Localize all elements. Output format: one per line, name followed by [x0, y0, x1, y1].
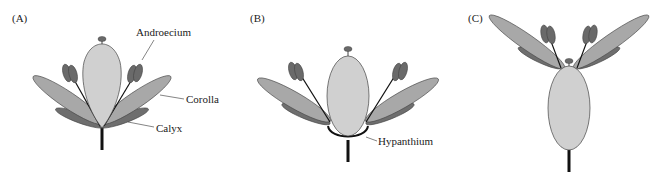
label-androecium: Androecium [136, 26, 191, 38]
panel-label-c: (C) [468, 12, 483, 25]
panel-label-a: (A) [12, 12, 28, 25]
panel-a: (A) Androecium Corolla Caly [12, 12, 219, 150]
panel-c: (C) [468, 9, 653, 172]
label-corolla: Corolla [186, 93, 219, 105]
ovary [327, 56, 369, 136]
stigma [98, 37, 106, 42]
stigma [344, 47, 352, 52]
flower-diagram: (A) Androecium Corolla Caly [0, 0, 668, 176]
stigma [565, 59, 573, 64]
androecium [539, 24, 598, 44]
diagram-canvas: (A) Androecium Corolla Caly [0, 0, 668, 176]
panel-label-b: (B) [250, 12, 265, 25]
label-calyx: Calyx [156, 122, 183, 134]
label-hypanthium: Hypanthium [378, 135, 433, 147]
panel-b: (B) Hypanthium [250, 12, 442, 162]
ovary [548, 66, 590, 150]
